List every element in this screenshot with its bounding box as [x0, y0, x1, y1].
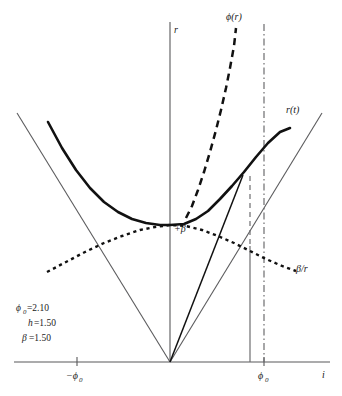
right-asymptote-line [170, 113, 322, 362]
x-tick-label-neg-phi0-main: −ϕ [66, 370, 78, 381]
x-tick-label-phi0-main: ϕ [258, 370, 263, 381]
parameter-phi0-value: =2.10 [27, 303, 49, 313]
beta-over-r-curve [47, 225, 296, 272]
parameter-phi0-symbol: ϕ [16, 303, 21, 313]
chord-origin-to-curve [170, 175, 243, 362]
parameter-h-symbol: h [28, 318, 33, 328]
parameter-phi0: ϕ 0 =2.10 [16, 303, 49, 315]
x-axis-label: i [322, 369, 325, 380]
x-tick-label-phi0-sub: 0 [265, 376, 269, 384]
y-axis-label: r [174, 24, 178, 35]
deflection-diagram-svg: r i −ϕ 0 ϕ 0 ϕ(r) r(t) β/r +β ϕ 0 =2.10 … [0, 0, 342, 396]
parameter-beta: β =1.50 [21, 333, 51, 343]
phi-of-r-label: ϕ(r) [226, 11, 242, 23]
parameter-h: h =1.50 [28, 318, 56, 328]
x-tick-label-neg-phi0-sub: 0 [79, 376, 83, 384]
x-tick-label-phi0: ϕ 0 [258, 370, 269, 384]
parameter-beta-symbol: β [21, 333, 27, 343]
beta-over-r-label: β/r [295, 263, 308, 274]
r-of-t-label: r(t) [286, 104, 300, 116]
plus-beta-label: +β [174, 223, 186, 234]
parameter-annotations: ϕ 0 =2.10 h =1.50 β =1.50 [16, 303, 56, 343]
parameter-beta-value: =1.50 [29, 333, 51, 343]
x-tick-label-neg-phi0: −ϕ 0 [66, 370, 83, 384]
parameter-h-value: =1.50 [34, 318, 56, 328]
r-of-t-curve [48, 122, 290, 225]
figure-container: r i −ϕ 0 ϕ 0 ϕ(r) r(t) β/r +β ϕ 0 =2.10 … [0, 0, 342, 396]
